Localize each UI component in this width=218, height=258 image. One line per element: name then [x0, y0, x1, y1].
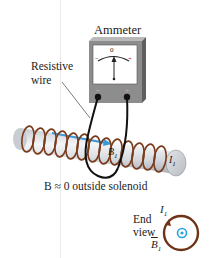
outside-note: B ≈ 0 outside solenoid	[44, 180, 147, 192]
terminal-minus-label: −	[96, 85, 100, 97]
ammeter-label: Ammeter	[94, 24, 141, 36]
resistive-wire-pointer	[62, 82, 90, 118]
end-current-label: I1	[160, 203, 167, 220]
resistive-label-line1: Resistive	[31, 60, 73, 72]
field-b1-label: B1	[108, 146, 118, 162]
solenoid-diagram: Ammeter 0 − + − + Resistive wire B1 I1 B…	[0, 0, 218, 258]
end-view	[164, 216, 198, 250]
resistive-label-line2: wire	[31, 74, 51, 86]
solenoid	[13, 125, 186, 176]
terminal-plus-label: +	[125, 85, 129, 97]
meter-zero-label: 0	[110, 44, 114, 56]
end-view-line2: view	[133, 226, 155, 238]
meter-minus-label: −	[95, 53, 99, 65]
diagram-graphics	[0, 0, 218, 258]
meter-plus-label: +	[128, 53, 132, 65]
current-i1-label: I1	[169, 154, 176, 170]
end-field-label: B1	[151, 238, 161, 255]
end-view-line1: End	[133, 213, 152, 225]
